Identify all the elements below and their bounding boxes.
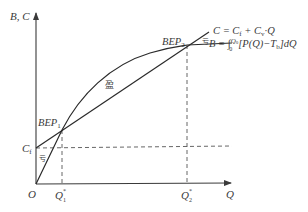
benefit-equation: B = ∫Q00[P(Q)−Tb]dQ bbox=[209, 37, 297, 52]
q2-label: Q*2 bbox=[181, 188, 192, 203]
loss-region-right-label: 亏 bbox=[202, 38, 209, 46]
cost-equation: C = Cf + Cv·Q bbox=[213, 25, 275, 38]
x-axis bbox=[36, 183, 231, 184]
x-axis-label: Q bbox=[226, 188, 234, 200]
bep1-label: BEP1 bbox=[38, 117, 61, 130]
fixed-cost-label: Cf bbox=[22, 142, 32, 156]
break-even-diagram: B, C Q O Cf Q*1 Q*2 BEP1 BEP2 盈 亏 亏 C = … bbox=[0, 0, 308, 212]
origin-label: O bbox=[28, 188, 36, 200]
loss-region-left-label: 亏 bbox=[39, 155, 46, 163]
fixed-cost-guide bbox=[36, 146, 232, 148]
y-axis-label: B, C bbox=[10, 10, 30, 22]
benefit-curve bbox=[36, 43, 232, 184]
profit-region-label: 盈 bbox=[105, 80, 114, 90]
q1-label: Q*1 bbox=[55, 188, 66, 203]
